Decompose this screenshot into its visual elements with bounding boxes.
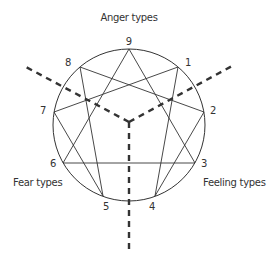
- point-4-label: 4: [149, 201, 155, 212]
- point-7-label: 7: [40, 105, 46, 116]
- point-1-label: 1: [185, 57, 191, 68]
- feeling-types-label: Feeling types: [203, 177, 266, 188]
- fear-types-label: Fear types: [13, 177, 62, 188]
- enneagram-diagram: Anger types Fear types Feeling types 9 1…: [0, 0, 270, 254]
- point-5-label: 5: [103, 201, 109, 212]
- divider-right: [129, 65, 234, 122]
- hexad-figure: [54, 67, 204, 196]
- anger-types-label: Anger types: [100, 12, 157, 23]
- point-3-label: 3: [201, 158, 207, 169]
- point-6-label: 6: [50, 158, 56, 169]
- point-9-label: 9: [126, 36, 132, 47]
- point-8-label: 8: [65, 57, 71, 68]
- point-2-label: 2: [210, 105, 216, 116]
